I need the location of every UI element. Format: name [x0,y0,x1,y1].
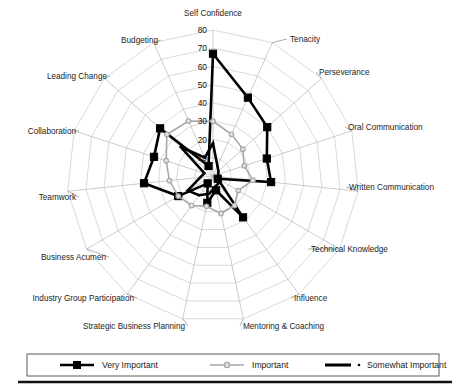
axis-label-oral-communication: Oral Communication [348,123,423,132]
axis-label-written-communication: Written Communication [349,183,434,192]
tick-label: 80 [198,25,208,35]
axis-label-technical-knowledge: Technical Knowledge [311,245,388,254]
tick-label: 50 [198,80,208,90]
legend-label-1: Important [252,360,289,370]
axis-label-mentoring-coaching: Mentoring & Coaching [243,322,324,331]
tick-label: 60 [198,62,208,72]
tick-label: 20 [198,135,208,145]
tick-label: 10 [198,153,208,163]
chart-legend: Very ImportantImportantSomewhat Importan… [18,354,452,382]
radar-chart-svg: 8070605040302010 Self ConfidenceTenacity… [0,0,466,392]
axis-label-business-acumen: Business Acumen [41,253,107,262]
axis-label-strategic-business-planning: Strategic Business Planning [83,322,185,331]
radar-tick-labels: 8070605040302010 [198,25,208,163]
tick-label: 70 [198,43,208,53]
tick-label: 40 [198,98,208,108]
axis-label-influence: Influence [294,294,328,303]
radar-chart: 8070605040302010 Self ConfidenceTenacity… [0,0,466,392]
axis-label-industry-group-participation: Industry Group Participation [33,294,135,303]
legend-label-2: Somewhat Important [367,360,447,370]
axis-label-collaboration: Collaboration [28,127,77,136]
tick-label: 30 [198,116,208,126]
axis-label-teamwork: Teamwork [39,193,77,202]
axis-label-leading-change: Leading Change [47,72,108,81]
radar-series [140,50,274,221]
axis-label-budgeting: Budgeting [121,36,158,45]
axis-label-tenacity: Tenacity [290,35,321,44]
axis-label-self-confidence: Self Confidence [184,9,242,18]
legend-label-0: Very Important [102,360,158,370]
legend-item-0[interactable]: Very Important [60,360,158,370]
axis-label-perseverance: Perseverance [319,68,370,77]
